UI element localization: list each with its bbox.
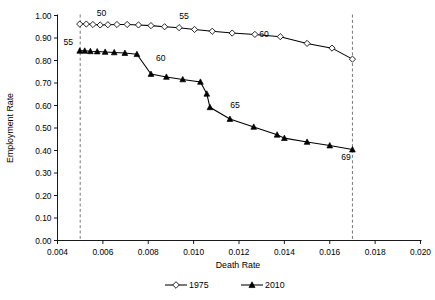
y-tick-label: 0.10: [35, 213, 52, 223]
y-tick-label: 0.90: [35, 33, 52, 43]
y-tick-label: 0.80: [35, 56, 52, 66]
x-tick-label: 0.004: [47, 247, 68, 257]
employment-vs-death-rate-chart: 0.000.100.200.300.400.500.600.700.800.90…: [0, 0, 435, 300]
legend-label-2010: 2010: [265, 280, 285, 290]
x-tick-label: 0.020: [410, 247, 431, 257]
y-tick-label: 0.60: [35, 101, 52, 111]
legend-label-1975: 1975: [189, 280, 209, 290]
y-tick-label: 0.40: [35, 146, 52, 156]
x-tick-label: 0.010: [183, 247, 204, 257]
age-label: 50: [97, 8, 107, 18]
x-tick-label: 0.014: [274, 247, 295, 257]
x-tick-label: 0.016: [319, 247, 340, 257]
y-tick-label: 0.00: [35, 236, 52, 246]
chart-container: 0.000.100.200.300.400.500.600.700.800.90…: [0, 0, 435, 300]
y-tick-label: 0.70: [35, 78, 52, 88]
y-axis-title: Employment Rate: [5, 93, 15, 163]
x-tick-label: 0.006: [92, 247, 113, 257]
y-tick-label: 0.50: [35, 123, 52, 133]
y-tick-label: 0.30: [35, 168, 52, 178]
age-label: 60: [156, 53, 166, 63]
age-label: 60: [259, 29, 269, 39]
age-label: 65: [230, 100, 240, 110]
x-tick-label: 0.012: [229, 247, 250, 257]
y-tick-label: 0.20: [35, 191, 52, 201]
age-label: 69: [341, 152, 351, 162]
x-tick-label: 0.008: [138, 247, 159, 257]
x-tick-label: 0.018: [365, 247, 386, 257]
x-axis-title: Death Rate: [216, 260, 261, 270]
age-label: 55: [64, 37, 74, 47]
y-tick-label: 1.00: [35, 11, 52, 21]
age-label: 55: [179, 11, 189, 21]
